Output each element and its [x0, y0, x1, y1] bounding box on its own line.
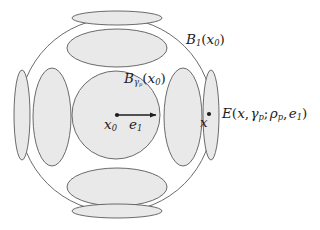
ellipsoid-bottom-boundary	[72, 204, 162, 218]
label-ellipsoid-arg2: γ	[250, 105, 258, 121]
label-center-point-sub: 0	[112, 123, 117, 133]
ellipsoid-left-inner	[33, 68, 71, 166]
label-ellipsoid-comma2: ,	[283, 105, 287, 121]
label-center-point: x0	[104, 118, 117, 132]
label-outer-ball-paren-close: )	[219, 31, 224, 47]
label-ellipsoid-arg4: e	[289, 105, 297, 121]
ellipsoid-bottom-inner	[67, 168, 167, 206]
label-boundary-point: x	[200, 116, 208, 130]
label-inner-ball: Bγp(x0)	[124, 72, 166, 86]
label-ellipsoid: E(x, γp; ρp, e1)	[222, 107, 307, 121]
label-ellipsoid-paren-close: )	[302, 105, 307, 121]
ellipsoid-left-boundary	[14, 70, 30, 160]
label-inner-ball-sub: γp	[134, 77, 142, 87]
label-ellipsoid-semicolon: ;	[264, 105, 269, 121]
label-inner-ball-arg: x	[148, 70, 156, 86]
ellipsoid-right-inner	[164, 68, 202, 166]
label-ellipsoid-arg3: ρ	[270, 105, 278, 121]
label-direction-vector: e1	[129, 118, 142, 132]
label-direction-base: e	[129, 116, 137, 132]
label-ellipsoid-comma1: ,	[245, 105, 249, 121]
figure-container: B1(x0) Bγp(x0) E(x, γp; ρp, e1) x0 e1 x	[0, 0, 320, 230]
label-inner-ball-base: B	[124, 70, 134, 86]
label-ellipsoid-base: E	[222, 105, 232, 121]
label-outer-ball: B1(x0)	[186, 33, 225, 47]
label-center-point-base: x	[104, 116, 112, 132]
center-point-dot	[115, 113, 119, 117]
label-ellipsoid-arg1: x	[237, 105, 245, 121]
label-boundary-point-base: x	[200, 114, 208, 130]
ellipsoid-top-inner	[67, 29, 167, 67]
label-direction-sub: 1	[137, 123, 142, 133]
label-inner-ball-paren-close: )	[160, 70, 165, 86]
ellipsoid-top-boundary	[72, 11, 162, 25]
label-outer-ball-arg: x	[207, 31, 215, 47]
label-outer-ball-base: B	[186, 31, 196, 47]
